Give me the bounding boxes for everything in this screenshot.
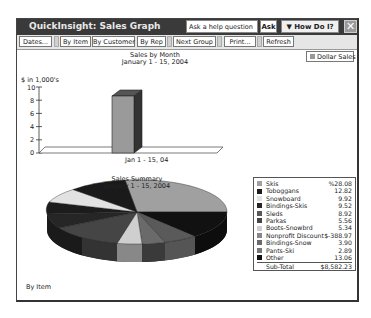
legend-item: Bindings-Snow3.90 xyxy=(257,239,352,246)
pie-legend: Skis%28.08 Toboggans12.82 Snowboard9.92 … xyxy=(253,177,356,271)
swatch-icon xyxy=(257,240,262,245)
legend-item: Parkas5.56 xyxy=(257,217,352,224)
legend-item: Toboggans12.82 xyxy=(257,187,352,194)
by-item-footer-label: By Item xyxy=(26,283,51,291)
legend-subtotal-row: Sub-Total$8,582.23 xyxy=(257,262,352,263)
legend-item: Pants-Ski2.89 xyxy=(257,247,352,254)
swatch-icon xyxy=(257,196,262,201)
legend-item: Skis%28.08 xyxy=(257,180,352,187)
legend-item: Sleds8.92 xyxy=(257,210,352,217)
swatch-icon xyxy=(257,255,262,260)
swatch-icon xyxy=(257,226,262,231)
legend-item: Nonprofit Discount$-388.97 xyxy=(257,232,352,239)
legend-item: Bindings-Skis9.52 xyxy=(257,202,352,209)
legend-item: Snowboard9.92 xyxy=(257,195,352,202)
swatch-icon xyxy=(257,189,262,194)
swatch-icon xyxy=(257,211,262,216)
legend-item: Other13.06 xyxy=(257,254,352,261)
pie-chart xyxy=(46,180,227,262)
swatch-icon xyxy=(257,218,262,223)
quickinsight-window: QuickInsight: Sales Graph Ask a help que… xyxy=(16,18,359,302)
swatch-icon xyxy=(257,181,262,186)
legend-item: Boots-Snowbrd5.34 xyxy=(257,224,352,231)
swatch-icon xyxy=(257,233,262,238)
swatch-icon xyxy=(257,203,262,208)
pie-chart-subtitle: January 1 - 15, 2004 xyxy=(77,182,197,190)
swatch-icon xyxy=(257,248,262,253)
